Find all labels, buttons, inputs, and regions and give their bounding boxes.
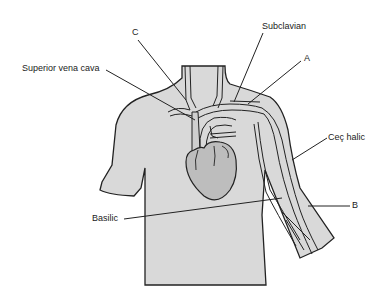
superior-vena-cava-vessel	[192, 112, 200, 152]
diagram-canvas: C Superior vena cava Subclavian A Ceç ha…	[0, 0, 382, 290]
label-b: B	[352, 201, 358, 210]
label-cephalic: Ceç halic	[328, 133, 365, 142]
leader-cephalic	[292, 138, 327, 160]
label-superior-vena-cava: Superior vena cava	[22, 64, 100, 73]
leader-a	[248, 61, 301, 104]
label-c: C	[132, 28, 139, 37]
anatomy-illustration	[0, 0, 382, 290]
label-subclavian: Subclavian	[262, 22, 306, 31]
label-a: A	[304, 54, 310, 63]
label-basilic: Basilic	[92, 214, 118, 223]
